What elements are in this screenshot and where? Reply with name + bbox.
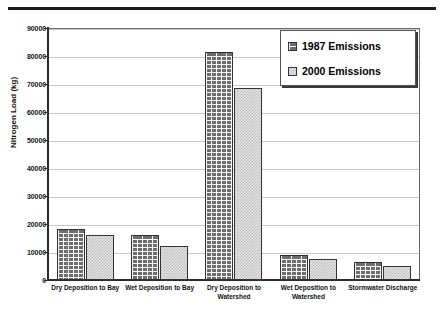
legend-swatch-2000-icon bbox=[288, 67, 297, 76]
y-axis-tick-label: 60000 bbox=[2, 109, 46, 116]
y-axis-tick-label: 90000 bbox=[2, 25, 46, 32]
bar-group bbox=[197, 28, 271, 280]
y-axis-tick-label: 50000 bbox=[2, 137, 46, 144]
y-axis-tick-label: 70000 bbox=[2, 81, 46, 88]
legend-swatch-1987-icon bbox=[288, 42, 297, 51]
x-axis-category-label-line: Dry Deposition to Bay bbox=[48, 283, 122, 292]
y-axis-ticks: 0100002000030000400005000060000700008000… bbox=[0, 0, 46, 316]
x-axis-category-label-line: Wet Deposition to Bay bbox=[122, 283, 196, 292]
bar bbox=[354, 262, 382, 280]
x-axis-category-label: Dry Deposition toWatershed bbox=[197, 283, 271, 301]
x-axis-category-label: Wet Deposition to Bay bbox=[122, 283, 196, 292]
y-axis-tick-label: 0 bbox=[2, 277, 46, 284]
bar bbox=[234, 88, 262, 280]
x-axis-category-label-line: Dry Deposition to bbox=[197, 283, 271, 292]
x-axis-category-label-line: Stormwater Discharge bbox=[346, 283, 420, 292]
legend-label-2000: 2000 Emissions bbox=[302, 65, 381, 77]
y-axis-tick-label: 10000 bbox=[2, 249, 46, 256]
x-axis-category-label-line: Watershed bbox=[197, 292, 271, 301]
x-axis-labels: Dry Deposition to BayWet Deposition to B… bbox=[48, 283, 420, 315]
legend-label-1987: 1987 Emissions bbox=[302, 40, 381, 52]
bar bbox=[309, 259, 337, 280]
legend-item-1987: 1987 Emissions bbox=[288, 40, 381, 52]
x-axis-category-label: Wet Deposition toWatershed bbox=[271, 283, 345, 301]
bar-group bbox=[48, 28, 122, 280]
bar bbox=[57, 229, 85, 280]
chart-figure: Nitrogen Load (kg) 010000200003000040000… bbox=[0, 0, 442, 316]
y-axis-tick-label: 20000 bbox=[2, 221, 46, 228]
bar bbox=[383, 266, 411, 280]
bar bbox=[86, 235, 114, 280]
x-axis-category-label-line: Watershed bbox=[271, 292, 345, 301]
y-axis-tick-label: 80000 bbox=[2, 53, 46, 60]
y-axis-tick-label: 40000 bbox=[2, 165, 46, 172]
y-axis-tick-label: 30000 bbox=[2, 193, 46, 200]
bar bbox=[160, 246, 188, 280]
x-axis-category-label-line: Wet Deposition to bbox=[271, 283, 345, 292]
bar bbox=[280, 255, 308, 280]
bar bbox=[205, 52, 233, 280]
bar-group bbox=[122, 28, 196, 280]
x-axis-category-label: Dry Deposition to Bay bbox=[48, 283, 122, 292]
legend-item-2000: 2000 Emissions bbox=[288, 65, 381, 77]
chart-legend: 1987 Emissions 2000 Emissions bbox=[280, 30, 416, 86]
x-axis-category-label: Stormwater Discharge bbox=[346, 283, 420, 292]
bar bbox=[131, 235, 159, 280]
top-divider-rule bbox=[8, 7, 436, 10]
